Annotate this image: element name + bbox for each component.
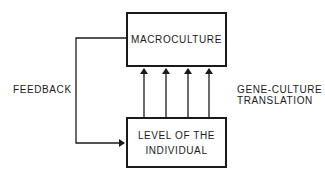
individual-level-label: LEVEL OF THE INDIVIDUAL [138, 128, 215, 158]
feedback-label: FEEDBACK [13, 84, 72, 95]
individual-level-box: LEVEL OF THE INDIVIDUAL [126, 117, 227, 168]
macroculture-label: MACROCULTURE [131, 32, 222, 47]
macroculture-box: MACROCULTURE [126, 12, 227, 67]
feedback-arrow [76, 38, 126, 143]
gene-culture-translation-label: GENE-CULTURE TRANSLATION [237, 84, 322, 106]
